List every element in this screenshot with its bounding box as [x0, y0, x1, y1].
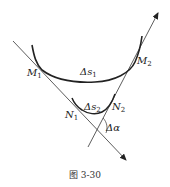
figure-caption: 图 3-30: [69, 170, 101, 180]
tangent-line-2: [88, 13, 158, 147]
label-n2: N2: [111, 101, 125, 114]
label-delta-s1: Δs1: [79, 66, 97, 79]
label-n1: N1: [64, 109, 78, 122]
label-delta-alpha: Δα: [105, 122, 120, 133]
diagram: M1 M2 Δs1 Δs2 N1 N2 Δα 图 3-30: [0, 0, 170, 187]
label-m2: M2: [136, 55, 152, 68]
tangent-line-1: [13, 41, 126, 160]
